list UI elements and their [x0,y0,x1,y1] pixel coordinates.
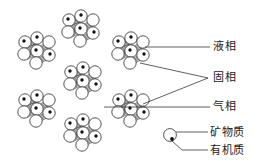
leader-line-solid-upper [140,63,208,78]
legend-organic-symbol [170,137,174,141]
cluster-bottom-left [18,90,55,127]
cluster-top-center [62,10,99,47]
label-organic: 有机质 [210,145,245,157]
label-liquid-phase: 液相 [213,41,236,53]
leader-line-solid-lower [143,78,208,104]
label-gas-phase: 气相 [213,101,236,113]
cluster-mid-center [64,62,101,99]
cluster-bottom-right [112,90,149,127]
legend-mineral-symbol [164,129,177,142]
cluster-top-left [18,32,55,69]
figure-canvas: 液相 固相 气相 矿物质 有机质 [0,0,253,166]
label-solid-phase: 固相 [213,72,236,84]
leader-line-organic [172,141,208,150]
label-mineral: 矿物质 [210,127,245,139]
cluster-bottom-center [64,114,101,151]
